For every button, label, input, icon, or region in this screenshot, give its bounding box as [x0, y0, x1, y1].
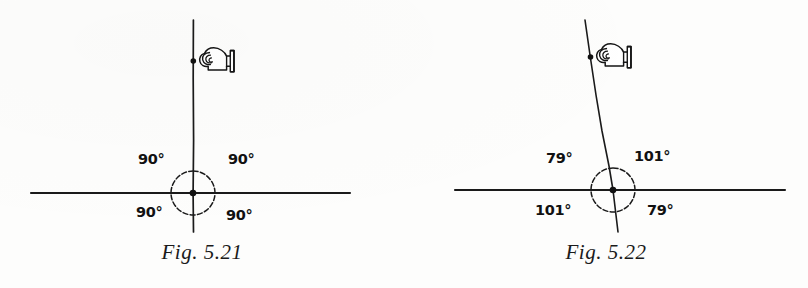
figure-5-22-drawing	[404, 0, 808, 250]
hand-pointing-icon	[597, 44, 631, 68]
angle-label-lower-right: 90°	[226, 208, 253, 223]
angle-label-upper-right: 90°	[228, 152, 255, 167]
angle-label-lower-left: 101°	[535, 203, 571, 218]
angle-label-lower-right: 79°	[647, 203, 674, 218]
figure-caption: Fig. 5.21	[0, 240, 404, 265]
angle-label-lower-left: 90°	[136, 205, 163, 220]
figure-caption: Fig. 5.22	[404, 240, 808, 265]
station-point-dot	[190, 190, 197, 197]
hand-pointing-icon	[200, 48, 234, 72]
station-point-dot	[610, 187, 617, 194]
vertical-sight-line	[193, 20, 194, 232]
figure-5-22: 79° 101° 101° 79° Fig. 5.22	[404, 0, 808, 288]
angle-label-upper-left: 90°	[138, 152, 165, 167]
angle-label-upper-right: 101°	[634, 149, 670, 164]
angle-label-upper-left: 79°	[546, 151, 573, 166]
figure-5-21: 90° 90° 90° 90° Fig. 5.21	[0, 0, 404, 288]
sight-point-dot	[588, 54, 594, 60]
figure-5-21-drawing	[0, 0, 404, 250]
figure-page: 90° 90° 90° 90° Fig. 5.21	[0, 0, 808, 288]
sight-point-dot	[191, 58, 197, 64]
